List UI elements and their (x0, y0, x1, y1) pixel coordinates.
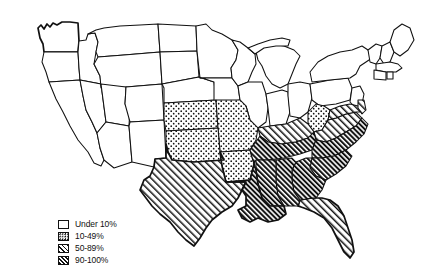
state-florida (298, 198, 354, 258)
state-washington (38, 22, 79, 52)
state-new-york (310, 46, 372, 82)
state-pennsylvania (310, 78, 352, 106)
legend-item-90-100[interactable]: 90-100% (58, 254, 208, 266)
state-montana (88, 24, 160, 57)
state-kansas (164, 100, 218, 131)
map-legend: Under 10% 10-49% 50-89% 90-100% (58, 218, 208, 266)
legend-label-10-49: 10-49% (75, 232, 104, 241)
legend-label-50-89: 50-89% (75, 244, 104, 253)
state-connecticut (374, 70, 386, 80)
legend-label-under-10: Under 10% (75, 220, 117, 229)
state-colorado (125, 84, 164, 122)
legend-swatch-50-89 (58, 244, 69, 253)
choropleth-figure: Under 10% 10-49% 50-89% 90-100% (0, 0, 433, 279)
state-vermont (368, 44, 382, 64)
legend-swatch-under-10 (58, 220, 69, 229)
state-oregon (42, 52, 80, 82)
legend-swatch-90-100 (58, 256, 69, 265)
state-wyoming (94, 52, 162, 88)
legend-item-under-10[interactable]: Under 10% (58, 218, 208, 230)
state-rhode-island (387, 72, 393, 79)
legend-item-50-89[interactable]: 50-89% (58, 242, 208, 254)
legend-label-90-100: 90-100% (75, 256, 108, 265)
state-north-dakota (158, 24, 197, 52)
state-michigan (256, 44, 300, 88)
legend-item-10-49[interactable]: 10-49% (58, 230, 208, 242)
state-indiana (266, 90, 290, 126)
state-maine (390, 24, 414, 56)
legend-swatch-10-49 (58, 232, 69, 241)
state-oklahoma (166, 128, 224, 162)
